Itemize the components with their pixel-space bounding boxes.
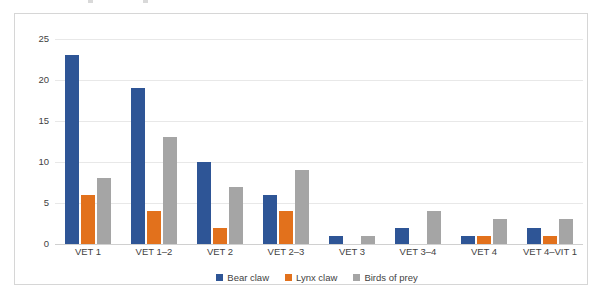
bar[interactable] [65,55,79,244]
bar[interactable] [197,162,211,244]
bar[interactable] [163,137,177,244]
bar-group [517,39,583,244]
bar[interactable] [461,236,475,244]
x-axis-tick-label: VET 2–3 [253,247,319,257]
bars-layer [55,39,583,244]
bar[interactable] [81,195,95,244]
bar[interactable] [543,236,557,244]
y-axis-tick-label: 20 [27,75,49,85]
bar[interactable] [559,219,573,244]
x-axis-tick-label: VET 2 [187,247,253,257]
y-axis-tick-label: 10 [27,157,49,167]
x-axis-tick-label: VET 3–4 [385,247,451,257]
bar[interactable] [295,170,309,244]
legend-item[interactable]: Birds of prey [353,273,417,283]
legend-item[interactable]: Lynx claw [285,273,337,283]
bar[interactable] [329,236,343,244]
y-axis-tick-label: 5 [27,198,49,208]
bar[interactable] [477,236,491,244]
x-axis-tick-label: VET 4 [451,247,517,257]
bar-group [55,39,121,244]
bar[interactable] [427,211,441,244]
legend-swatch-icon [216,274,223,281]
caption-remnant-mark [88,0,93,3]
bar-group [253,39,319,244]
bar[interactable] [395,228,409,244]
bar-group [385,39,451,244]
bar-group [121,39,187,244]
bar[interactable] [97,178,111,244]
bar[interactable] [361,236,375,244]
caption-remnant [0,0,604,8]
caption-remnant-mark [143,0,148,3]
y-axis-tick-label: 15 [27,116,49,126]
bar[interactable] [279,211,293,244]
legend-label: Birds of prey [364,273,417,283]
x-axis-tick-label: VET 1–2 [121,247,187,257]
legend-swatch-icon [285,274,292,281]
bar[interactable] [263,195,277,244]
legend-label: Bear claw [227,273,269,283]
legend-label: Lynx claw [296,273,337,283]
x-axis-tick-label: VET 3 [319,247,385,257]
y-axis-tick-label: 0 [27,239,49,249]
bar-group [187,39,253,244]
bar[interactable] [131,88,145,244]
chart-frame: 0510152025 VET 1VET 1–2VET 2VET 2–3VET 3… [14,13,588,285]
legend-item[interactable]: Bear claw [216,273,269,283]
legend-swatch-icon [353,274,360,281]
bar[interactable] [493,219,507,244]
gridline [55,244,583,245]
bar[interactable] [527,228,541,244]
bar[interactable] [213,228,227,244]
chart-figure: 0510152025 VET 1VET 1–2VET 2VET 2–3VET 3… [0,0,604,301]
y-axis: 0510152025 [23,39,49,244]
bar[interactable] [229,187,243,244]
bar[interactable] [147,211,161,244]
y-axis-tick-label: 25 [27,34,49,44]
x-axis: VET 1VET 1–2VET 2VET 2–3VET 3VET 3–4VET … [55,247,583,263]
x-axis-tick-label: VET 1 [55,247,121,257]
chart-legend: Bear clawLynx clawBirds of prey [15,273,604,283]
bar-group [451,39,517,244]
bar-group [319,39,385,244]
x-axis-tick-label: VET 4–VIT 1 [517,247,583,257]
plot-area [55,39,583,244]
